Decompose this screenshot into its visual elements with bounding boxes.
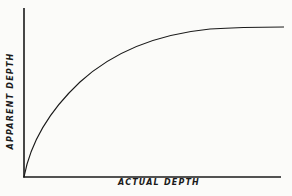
saturation-curve	[24, 27, 284, 177]
plot-area	[0, 0, 292, 196]
x-axis-label: ACTUAL DEPTH	[118, 178, 200, 187]
y-axis-label: APPARENT DEPTH	[6, 53, 15, 150]
depth-perception-diagram: APPARENT DEPTH ACTUAL DEPTH	[0, 0, 292, 196]
